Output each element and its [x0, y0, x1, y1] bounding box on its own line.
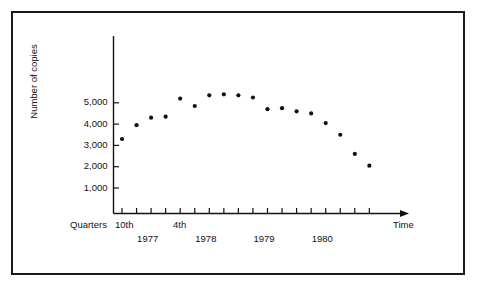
data-point	[309, 111, 313, 115]
y-tick-label: 2,000	[62, 160, 108, 171]
first-quarter-label: 10th	[115, 219, 134, 230]
data-point	[324, 121, 328, 125]
data-point	[367, 164, 371, 168]
data-point	[338, 133, 342, 137]
data-point	[134, 123, 138, 127]
y-tick-marks	[114, 103, 120, 188]
data-point	[251, 95, 255, 99]
y-tick-label: 3,000	[62, 139, 108, 150]
quarters-label: Quarters	[70, 219, 107, 230]
data-point	[149, 116, 153, 120]
data-point	[193, 104, 197, 108]
data-point	[120, 137, 124, 141]
y-axis-title: Number of copies	[28, 27, 39, 137]
year-label: 1980	[312, 233, 333, 244]
data-point	[265, 107, 269, 111]
year-label: 1978	[195, 233, 216, 244]
y-tick-label: 5,000	[62, 96, 108, 107]
data-point	[353, 152, 357, 156]
fourth-quarter-label: 4th	[173, 219, 186, 230]
data-point	[295, 109, 299, 113]
y-tick-label: 1,000	[62, 182, 108, 193]
data-point	[178, 96, 182, 100]
x-axis-title: Time	[393, 219, 414, 230]
x-axis-arrow-icon	[400, 210, 409, 217]
year-label: 1979	[254, 233, 275, 244]
data-point	[222, 92, 226, 96]
data-point	[207, 93, 211, 97]
data-point	[280, 106, 284, 110]
data-point	[164, 115, 168, 119]
chart-axes	[114, 36, 410, 217]
x-tick-marks	[122, 208, 369, 214]
data-points-group	[120, 92, 372, 168]
y-tick-label: 4,000	[62, 118, 108, 129]
year-label: 1977	[137, 233, 158, 244]
data-point	[236, 93, 240, 97]
